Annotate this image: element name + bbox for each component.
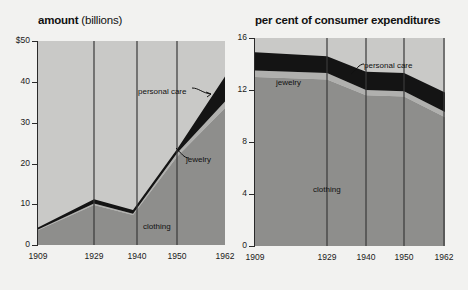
right-y-axis	[254, 38, 255, 247]
right-annotation-jewelry: jewelry	[276, 78, 301, 87]
left-xtick-label-1940: 1940	[121, 251, 153, 261]
left-leader-personal-care	[192, 85, 214, 99]
right-ytick-label-4: 4	[234, 188, 247, 198]
right-chart-title-bold: per cent of consumer expenditures	[255, 14, 440, 26]
right-annotation-clothing: clothing	[313, 185, 341, 194]
left-xtick-label-1929: 1929	[78, 251, 110, 261]
left-ytick-20	[32, 164, 37, 165]
left-ytick-label-20: 20	[2, 158, 30, 168]
chart-amount-billions: amount (billions)	[0, 0, 234, 290]
right-annotation-personal-care: personal care	[364, 61, 412, 70]
right-ytick-8	[249, 142, 254, 143]
left-leader-jewelry	[176, 146, 190, 160]
left-ytick-10	[32, 204, 37, 205]
left-plot-area	[38, 41, 225, 245]
left-annotation-clothing: clothing	[143, 222, 171, 231]
right-xtick-label-1940: 1940	[350, 252, 382, 262]
right-xtick-label-1950: 1950	[388, 252, 420, 262]
right-ytick-label-8: 8	[234, 136, 247, 146]
right-ytick-4	[249, 194, 254, 195]
left-ytick-label-0: 0	[2, 239, 30, 249]
left-chart-title-bold: amount	[38, 14, 78, 26]
left-series-svg	[38, 41, 225, 245]
left-xtick-label-1950: 1950	[161, 251, 193, 261]
left-annotation-personal-care: personal care	[138, 87, 186, 96]
right-ytick-12	[249, 90, 254, 91]
left-ytick-50	[32, 41, 37, 42]
left-ytick-label-30: 30	[2, 117, 30, 127]
right-chart-title: per cent of consumer expenditures	[255, 14, 440, 26]
right-ytick-label-16: 16	[234, 32, 247, 42]
right-ytick-label-0: 0	[234, 240, 247, 250]
left-ytick-label-10: 10	[2, 198, 30, 208]
figure-root: amount (billions)	[0, 0, 468, 290]
left-ytick-label-50: $50	[2, 35, 30, 45]
right-ytick-16	[249, 38, 254, 39]
left-chart-title-rest: (billions)	[78, 14, 122, 26]
left-xtick-label-1909: 1909	[22, 251, 54, 261]
left-chart-title: amount (billions)	[38, 14, 122, 26]
right-ytick-0	[249, 246, 254, 247]
right-xtick-label-1909: 1909	[239, 252, 271, 262]
left-ytick-30	[32, 123, 37, 124]
chart-per-cent-consumer-expenditures: per cent of consumer expenditures	[234, 0, 468, 290]
right-xtick-label-1962: 1962	[428, 252, 460, 262]
right-leader-personal-care	[349, 60, 365, 76]
left-ytick-label-40: 40	[2, 76, 30, 86]
left-ytick-40	[32, 82, 37, 83]
left-ytick-0	[32, 245, 37, 246]
right-ytick-label-12: 12	[234, 84, 247, 94]
right-xtick-label-1929: 1929	[311, 252, 343, 262]
left-y-axis	[37, 41, 38, 246]
